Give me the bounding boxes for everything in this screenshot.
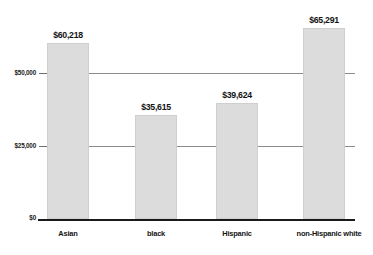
bar-hispanic[interactable] [216,103,258,219]
bar-value-asian: $60,218 [40,29,95,40]
bar-chart: $50,000 $25,000 $0 $60,218 $35,615 $39,6… [0,0,373,255]
bar-black[interactable] [135,115,177,219]
y-tick-label-25000: $25,000 [4,142,36,149]
plot-area: $50,000 $25,000 $0 $60,218 $35,615 $39,6… [0,0,373,255]
x-axis-line [38,219,355,221]
bar-value-hispanic: $39,624 [209,89,264,100]
bar-non-hispanic-white[interactable] [303,28,345,219]
x-label-hispanic: Hispanic [209,229,265,238]
tick-25000 [39,146,47,147]
x-label-non-hispanic-white: non-Hispanic white [289,229,369,238]
bar-value-black: $35,615 [128,101,183,112]
y-tick-label-0: $0 [4,214,36,221]
x-label-asian: Asian [40,229,96,238]
tick-50000 [39,73,47,74]
y-tick-label-50000: $50,000 [4,69,36,76]
bar-value-non-hispanic-white: $65,291 [296,14,351,25]
bar-asian[interactable] [47,43,89,219]
x-label-black: black [128,229,184,238]
